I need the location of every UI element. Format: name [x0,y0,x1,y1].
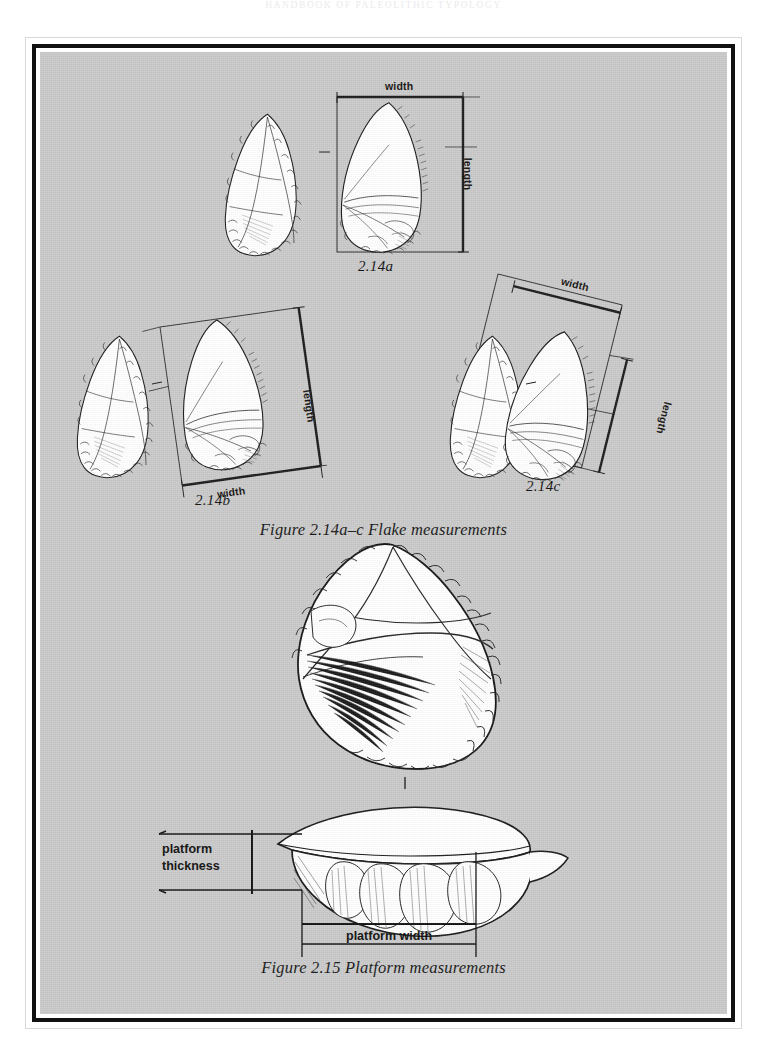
flake-drawing-2-15-platform-view [278,807,568,936]
flake-drawing-2-15-plan [292,544,501,789]
platform-thickness-label: platform thickness [162,841,220,875]
panel-label-2-14b: 2.14b [195,492,230,509]
platform-thickness-line-2: thickness [162,859,220,873]
panel-label-2-14c: 2.14c [526,478,560,495]
flake-drawing-2-14a-ventral [341,103,429,254]
length-label-2-14a: length [462,158,474,191]
flake-drawing-2-14c-ventral [500,327,603,487]
platform-width-label: platform width [346,928,432,945]
flake-drawing-2-14b-ventral [169,314,277,476]
width-label-2-14a: width [385,80,413,92]
platform-thickness-line-1: platform [162,842,212,856]
running-head: HANDBOOK OF PALEOLITHIC TYPOLOGY [0,0,767,10]
figure-2-15-caption: Figure 2.15 Platform measurements [40,958,727,978]
flake-drawing-2-14b-dorsal [77,336,153,477]
page-content-area: width length 2.14a width length 2.14b wi… [40,52,727,1014]
figure-2-14-caption: Figure 2.14a–c Flake measurements [40,520,727,540]
flake-drawing-2-14a-dorsal [225,114,301,255]
panel-label-2-14a: 2.14a [358,258,393,275]
